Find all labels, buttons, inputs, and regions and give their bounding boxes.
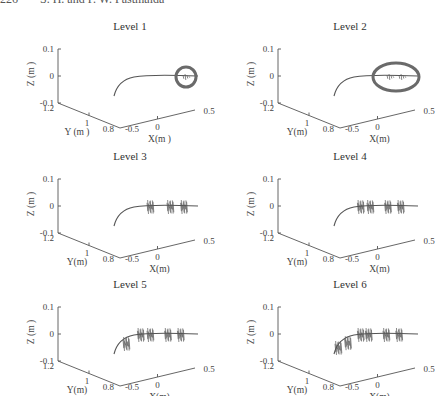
highlight-circle [176, 67, 196, 87]
plot-title: Level 5 [113, 278, 147, 290]
disturbance-burst [397, 200, 404, 214]
z-axis-label: Z (m ) [246, 320, 257, 344]
plot-panel-3: Level 30.10-0.1Z (m )1.210.8Y(m)-0.500.5… [0, 140, 220, 268]
y-tick-label: 1.2 [43, 233, 54, 243]
disturbance-burst [177, 328, 184, 342]
y-tick-label: 0.8 [323, 254, 335, 264]
trajectory-line [334, 205, 418, 226]
x-tick-label: -0.5 [345, 254, 360, 264]
plot-title: Level 3 [113, 150, 147, 162]
x-tick-label: 0.5 [423, 106, 435, 116]
plot-title: Level 2 [333, 20, 366, 32]
y-tick-label: 1.2 [263, 103, 274, 113]
y-axis-label: Y (m ) [65, 127, 90, 138]
plot-title: Level 6 [333, 278, 367, 290]
y-tick-label: 0.8 [103, 124, 115, 134]
z-tick-label: 0 [270, 201, 275, 211]
highlight-ellipse [373, 63, 419, 91]
x-tick-label: 0.5 [203, 236, 215, 246]
plot-panel-4: Level 40.10-0.1Z (m )1.210.8Y(m)-0.500.5… [220, 140, 440, 268]
x-axis-label: X(m) [149, 392, 170, 396]
disturbance-burst [147, 328, 154, 342]
y-axis-label: Y(m) [287, 127, 308, 138]
z-tick-label: 0.1 [263, 174, 274, 184]
x-tick-label: 0 [375, 252, 380, 262]
disturbance-burst [345, 336, 352, 350]
disturbance-burst [396, 328, 403, 342]
x-tick-label: 0 [375, 122, 380, 132]
x-tick-label: 0.5 [423, 364, 435, 374]
plot-panel-5: Level 50.10-0.1Z (m )1.210.8Y(m)-0.500.5… [0, 268, 220, 396]
y-axis-label: Y(m) [287, 257, 308, 268]
y-tick-label: 1.2 [263, 233, 274, 243]
y-axis-label: Y(m) [67, 257, 88, 268]
z-tick-label: 0 [50, 71, 55, 81]
x-tick-label: -0.5 [125, 124, 140, 134]
disturbance-burst [367, 200, 374, 214]
z-tick-label: 0 [50, 329, 55, 339]
z-axis-label: Z (m ) [26, 320, 37, 344]
y-tick-label: 0.8 [323, 124, 335, 134]
running-head: S. H. and P. W. Fastmaida [40, 0, 164, 7]
x-tick-label: 0.5 [203, 364, 215, 374]
disturbance-burst [123, 337, 130, 351]
disturbance-burst [137, 328, 144, 342]
disturbance-burst [183, 74, 190, 80]
x-tick-label: 0.5 [203, 106, 215, 116]
z-tick-label: 0 [50, 201, 55, 211]
x-tick-label: 0.5 [423, 236, 435, 246]
disturbance-burst [181, 200, 188, 214]
plot-title: Level 4 [333, 150, 367, 162]
z-tick-label: 0.1 [43, 302, 54, 312]
plot-panel-6: Level 60.10-0.1Z (m )1.210.8Y(m)-0.500.5… [220, 268, 440, 396]
z-axis-label: Z (m ) [26, 192, 37, 216]
z-tick-label: 0.1 [263, 302, 274, 312]
z-tick-label: 0.1 [43, 174, 54, 184]
x-tick-label: 0 [155, 380, 160, 390]
y-tick-label: 0.8 [323, 382, 335, 392]
z-axis-label: Z (m ) [246, 62, 257, 86]
y-tick-label: 1.2 [43, 361, 54, 371]
y-tick-label: 1.2 [263, 361, 274, 371]
page-number: 226 [0, 0, 18, 7]
plot-title: Level 1 [113, 20, 146, 32]
x-tick-label: -0.5 [345, 382, 360, 392]
z-axis-label: Z (m ) [26, 62, 37, 86]
z-tick-label: 0 [270, 71, 275, 81]
disturbance-burst [385, 200, 392, 214]
y-tick-label: 0.8 [103, 254, 115, 264]
disturbance-burst [357, 328, 364, 342]
x-tick-label: 0 [155, 252, 160, 262]
x-axis-label: X(m) [369, 392, 390, 396]
disturbance-burst [357, 200, 364, 214]
x-tick-label: 0 [375, 380, 380, 390]
z-tick-label: 0.1 [43, 44, 54, 54]
y-axis-label: Y(m) [67, 385, 88, 396]
disturbance-burst [147, 200, 154, 214]
disturbance-burst [167, 200, 174, 214]
plot-panel-1: Level 10.10-0.1Z (m )1.210.8Y (m )-0.500… [0, 10, 220, 138]
disturbance-burst [165, 328, 172, 342]
z-axis-label: Z (m ) [246, 192, 257, 216]
y-axis-label: Y(m) [287, 385, 308, 396]
x-tick-label: 0 [155, 122, 160, 132]
disturbance-burst [383, 328, 390, 342]
disturbance-burst [365, 328, 372, 342]
z-tick-label: 0.1 [263, 44, 274, 54]
x-tick-label: -0.5 [125, 382, 140, 392]
z-tick-label: 0 [270, 329, 275, 339]
x-tick-label: -0.5 [345, 124, 360, 134]
x-tick-label: -0.5 [125, 254, 140, 264]
disturbance-burst [335, 341, 342, 355]
y-tick-label: 1.2 [43, 103, 54, 113]
plot-panel-2: Level 20.10-0.1Z (m )1.210.8Y(m)-0.500.5… [220, 10, 440, 138]
y-tick-label: 0.8 [103, 382, 115, 392]
